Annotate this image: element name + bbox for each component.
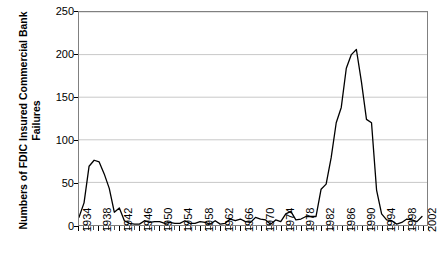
x-tick-label: 1942 xyxy=(123,208,134,232)
x-axis-labels: 1934193819421946195019541958196219661970… xyxy=(78,231,428,277)
x-tick-mark xyxy=(316,226,317,230)
y-tick-label: 250 xyxy=(44,6,74,17)
x-tick-label: 2002 xyxy=(427,208,438,232)
x-tick-mark xyxy=(357,226,358,230)
x-tick-mark xyxy=(296,226,297,230)
x-tick-label: 1966 xyxy=(244,208,255,232)
y-tick-label: 200 xyxy=(44,49,74,60)
x-tick-label: 1990 xyxy=(366,208,377,232)
x-tick-label: 1958 xyxy=(204,208,215,232)
gridlines xyxy=(79,12,427,182)
y-axis-title-line1: Numbers of FDIC Insured Commercial Bank xyxy=(17,11,29,229)
x-tick-mark xyxy=(215,226,216,230)
x-tick-label: 1950 xyxy=(163,208,174,232)
x-tick-mark xyxy=(398,226,399,230)
x-tick-label: 1998 xyxy=(407,208,418,232)
bank-failures-chart: Numbers of FDIC Insured Commercial Bank … xyxy=(0,0,441,280)
x-tick-label: 1934 xyxy=(82,208,93,232)
x-tick-label: 1970 xyxy=(265,208,276,232)
x-tick-mark xyxy=(154,226,155,230)
x-tick-mark xyxy=(235,226,236,230)
x-tick-mark xyxy=(114,226,115,230)
x-tick-label: 1982 xyxy=(325,208,336,232)
series-polyline xyxy=(79,49,422,224)
x-tick-label: 1978 xyxy=(305,208,316,232)
x-tick-mark xyxy=(93,226,94,230)
y-axis-ticks: 050100150200250 xyxy=(40,11,74,226)
data-series-line xyxy=(79,12,427,225)
x-tick-label: 1962 xyxy=(224,208,235,232)
x-tick-mark xyxy=(256,226,257,230)
y-tick-label: 0 xyxy=(44,221,74,232)
x-tick-label: 1974 xyxy=(285,208,296,232)
x-tick-mark xyxy=(377,226,378,230)
x-tick-label: 1986 xyxy=(346,208,357,232)
x-tick-label: 1954 xyxy=(183,208,194,232)
x-tick-label: 1946 xyxy=(143,208,154,232)
x-tick-label: 1938 xyxy=(102,208,113,232)
y-tick-label: 50 xyxy=(44,178,74,189)
x-tick-mark xyxy=(337,226,338,230)
x-tick-mark xyxy=(195,226,196,230)
y-tick-label: 100 xyxy=(44,135,74,146)
x-tick-mark xyxy=(174,226,175,230)
y-tick-label: 150 xyxy=(44,92,74,103)
x-tick-label: 1994 xyxy=(386,208,397,232)
plot-area xyxy=(78,11,428,226)
